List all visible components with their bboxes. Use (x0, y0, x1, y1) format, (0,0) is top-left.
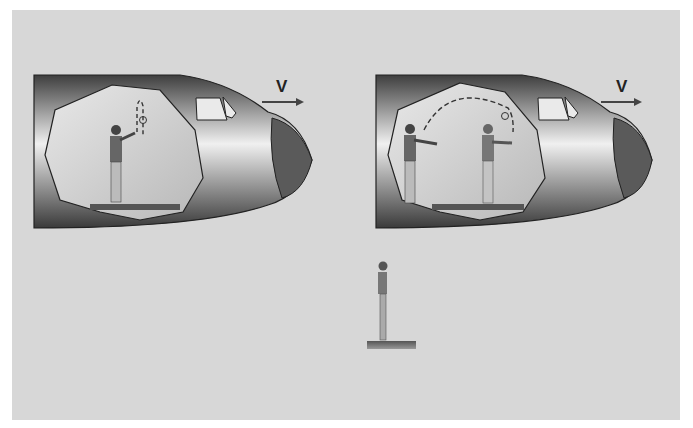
velocity-label-left: V (276, 77, 287, 97)
cabin-floor-right (432, 204, 524, 210)
airplane-right (376, 75, 652, 228)
ground-observer (367, 262, 416, 350)
airplane-left (34, 75, 312, 228)
cabin-floor-left (90, 204, 180, 210)
diagram-canvas (0, 0, 693, 428)
ground-platform (367, 341, 416, 349)
velocity-label-right: V (616, 77, 627, 97)
